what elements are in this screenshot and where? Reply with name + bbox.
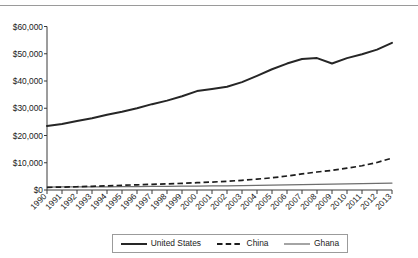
series-line-united-states [47,43,392,126]
y-axis-tick-label: $30,000 [13,103,44,113]
chart-legend: United States China Ghana [112,234,348,253]
chart-figure: $0$10,000$20,000$30,000$40,000$50,000$60… [0,0,418,258]
x-axis-tick-labels: 1990199119921993199419951996199719981999… [28,191,393,211]
y-axis-tick-label: $20,000 [13,131,44,141]
legend-item-ghana: Ghana [284,239,339,247]
series-line-ghana [47,183,392,187]
line-chart-svg: $0$10,000$20,000$30,000$40,000$50,000$60… [0,0,418,232]
solid-thin-line-swatch [284,240,310,248]
legend-label-china: China [247,239,269,247]
x-axis-tick-label: 2013 [373,191,393,211]
chart-plot-area: $0$10,000$20,000$30,000$40,000$50,000$60… [0,0,418,232]
legend-item-china: China [217,239,269,247]
legend-item-united-states: United States [121,239,201,247]
y-axis-tick-label: $40,000 [13,76,44,86]
y-axis-tick-label: $50,000 [13,49,44,59]
dashed-line-swatch [217,240,243,248]
y-axis-tick-label: $10,000 [13,158,44,168]
y-axis-tick-labels: $0$10,000$20,000$30,000$40,000$50,000$60… [13,22,44,196]
y-axis-tick-label: $60,000 [13,22,44,32]
solid-thick-line-swatch [121,240,147,248]
data-series-group [47,43,392,187]
legend-label-ghana: Ghana [314,239,339,247]
series-line-china [47,158,392,187]
legend-label-united-states: United States [151,239,201,247]
